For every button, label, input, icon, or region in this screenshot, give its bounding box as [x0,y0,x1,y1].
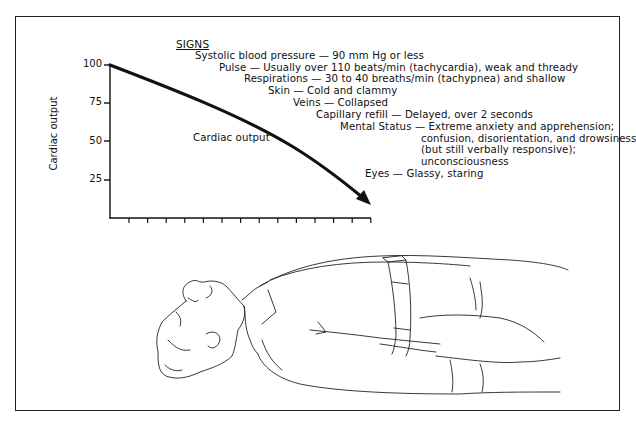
sign-skin: Skin — Cold and clammy [268,85,397,97]
sign-mental-status-cont-2: (but still verbally responsive); [421,144,576,156]
sign-veins: Veins — Collapsed [293,97,388,109]
sign-mental-status: Mental Status — Extreme anxiety and appr… [340,121,614,133]
curve-label: Cardiac output [193,132,270,144]
sign-systolic-bp: Systolic blood pressure — 90 mm Hg or le… [195,50,424,62]
sign-capillary-refill: Capillary refill — Delayed, over 2 secon… [316,109,533,121]
sign-respirations: Respirations — 30 to 40 breaths/min (tac… [244,73,565,85]
sign-mental-status-cont-3: unconsciousness [421,156,509,168]
sign-eyes: Eyes — Glassy, staring [365,168,483,180]
patient-illustration [157,255,568,394]
signs-heading: SIGNS [176,38,209,50]
